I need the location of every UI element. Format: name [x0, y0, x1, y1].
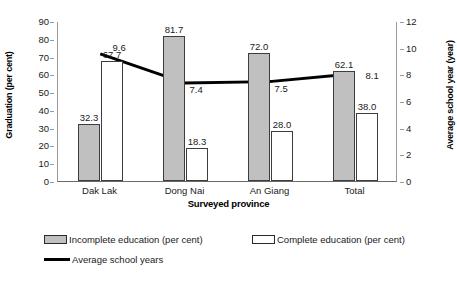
legend-label-complete-education: Complete education (per cent)	[277, 234, 405, 245]
y-axis-left-tick-mark	[50, 40, 54, 41]
legend-item-average-school-years: Average school years	[44, 254, 163, 265]
x-axis-label-dak-lak: Dak Lak	[82, 185, 117, 196]
plot-area: 32.367.781.718.372.028.062.138.09.67.47.…	[57, 22, 397, 182]
y-axis-right-tick-mark	[400, 129, 404, 130]
y-axis-right-ticks: 024681012	[400, 22, 434, 182]
x-axis-label-total: Total	[344, 185, 364, 196]
legend-row-1: Incomplete education (per cent) Complete…	[44, 234, 444, 254]
bar-incomplete-dak-lak	[78, 124, 100, 181]
y-axis-left-tick-mark	[50, 164, 54, 165]
graduation-chart: Graduation (per cent) Average school yea…	[0, 0, 457, 282]
bar-complete-total	[356, 113, 378, 181]
y-axis-left-tick-mark	[50, 111, 54, 112]
bar-value-label: 32.3	[80, 113, 99, 123]
y-axis-right-tick-mark	[400, 75, 404, 76]
x-axis-label-an-giang: An Giang	[250, 185, 290, 196]
bar-incomplete-total	[333, 71, 355, 181]
y-axis-right-tick-mark	[400, 102, 404, 103]
y-axis-left-tick-mark	[50, 182, 54, 183]
y-axis-left-tick-label: 20	[20, 142, 54, 152]
bar-value-label: 38.0	[358, 102, 377, 112]
y-axis-left-tick-label: 40	[20, 106, 54, 116]
y-axis-left-tick-mark	[50, 75, 54, 76]
x-axis-label-dong-nai: Dong Nai	[165, 185, 205, 196]
y-axis-left-title-text: Graduation (per cent)	[4, 51, 14, 138]
line-value-label: 7.4	[190, 85, 203, 95]
legend-label-average-school-years: Average school years	[72, 254, 163, 265]
y-axis-left-tick-label: 90	[20, 17, 54, 27]
y-axis-right-tick-label: 0	[400, 177, 434, 187]
y-axis-right-tick-mark	[400, 155, 404, 156]
line-value-label: 9.6	[113, 43, 126, 53]
y-axis-left-tick-label: 70	[20, 53, 54, 63]
bar-value-label: 62.1	[335, 60, 354, 70]
bar-complete-dak-lak	[101, 61, 123, 181]
bar-incomplete-an-giang	[248, 53, 270, 181]
chart-legend: Incomplete education (per cent) Complete…	[44, 234, 444, 274]
x-axis-title: Surveyed province	[0, 198, 457, 209]
legend-label-incomplete-education: Incomplete education (per cent)	[69, 234, 203, 245]
y-axis-left-tick-label: 80	[20, 35, 54, 45]
y-axis-left-ticks: 0102030405060708090	[20, 22, 54, 182]
y-axis-left-tick-mark	[50, 129, 54, 130]
bar-complete-an-giang	[271, 131, 293, 181]
line-value-label: 8.1	[366, 71, 379, 81]
y-axis-left-tick-mark	[50, 93, 54, 94]
y-axis-left-tick-label: 30	[20, 124, 54, 134]
legend-item-complete-education: Complete education (per cent)	[252, 234, 405, 245]
y-axis-left-tick-mark	[50, 58, 54, 59]
bar-complete-dong-nai	[186, 148, 208, 181]
y-axis-right-tick-mark	[400, 22, 404, 23]
y-axis-left-tick-label: 50	[20, 88, 54, 98]
y-axis-right-tick-label: 12	[400, 17, 434, 27]
legend-item-incomplete-education: Incomplete education (per cent)	[44, 234, 203, 245]
bar-value-label: 81.7	[165, 25, 184, 35]
bar-value-label: 28.0	[273, 120, 292, 130]
y-axis-right-tick-label: 6	[400, 97, 434, 107]
line-value-label: 7.5	[275, 84, 288, 94]
y-axis-left-tick-label: 0	[20, 177, 54, 187]
white-square-swatch-icon	[252, 235, 275, 244]
y-axis-right-tick-mark	[400, 49, 404, 50]
x-axis-category-labels: Dak LakDong NaiAn GiangTotal	[57, 185, 397, 199]
black-line-swatch-icon	[44, 258, 70, 261]
y-axis-right-tick-label: 4	[400, 124, 434, 134]
bar-value-label: 18.3	[188, 137, 207, 147]
y-axis-right-tick-label: 10	[400, 44, 434, 54]
y-axis-left-title: Graduation (per cent)	[2, 0, 16, 190]
y-axis-left-tick-label: 10	[20, 159, 54, 169]
y-axis-right-title: Average school year (year)	[443, 0, 457, 190]
y-axis-left-tick-label: 60	[20, 71, 54, 81]
y-axis-right-title-text: Average school year (year)	[445, 40, 455, 150]
bar-value-label: 72.0	[250, 42, 269, 52]
gray-square-swatch-icon	[44, 235, 67, 244]
y-axis-right-tick-mark	[400, 182, 404, 183]
y-axis-left-tick-mark	[50, 146, 54, 147]
legend-row-2: Average school years	[44, 254, 444, 274]
y-axis-left-tick-mark	[50, 22, 54, 23]
y-axis-right-tick-label: 8	[400, 71, 434, 81]
bar-incomplete-dong-nai	[163, 36, 185, 181]
average-school-years-polyline	[100, 54, 354, 83]
y-axis-right-tick-label: 2	[400, 151, 434, 161]
